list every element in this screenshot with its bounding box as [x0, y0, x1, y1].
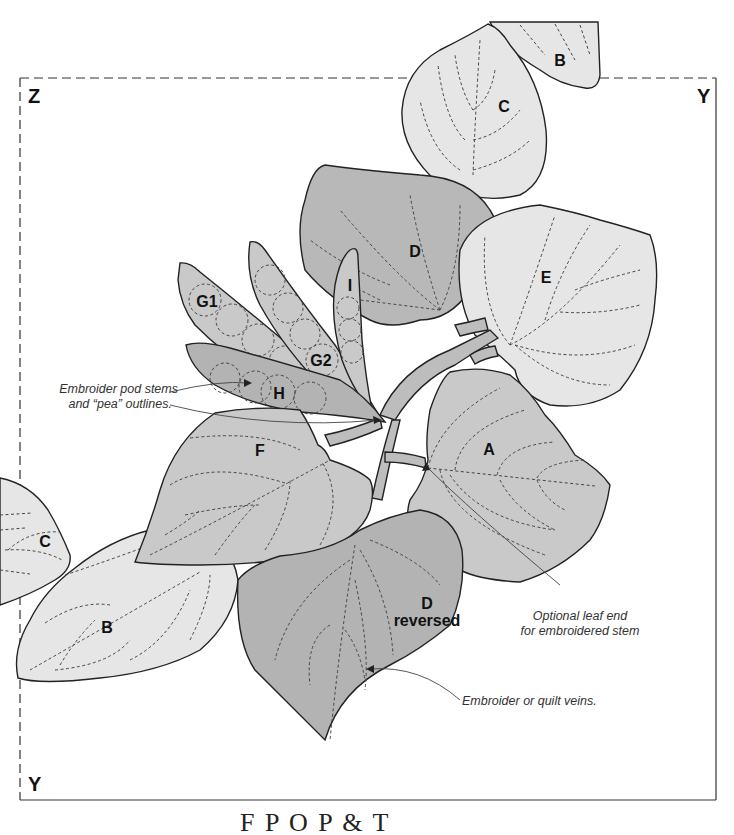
label-d-reversed-line2: reversed [394, 612, 461, 629]
corner-label-bottom-left: Y [28, 773, 42, 795]
label-e: E [541, 269, 552, 286]
label-g1: G1 [196, 293, 217, 310]
label-c-left: C [39, 533, 51, 550]
note-veins: Embroider or quilt veins. [462, 694, 597, 708]
label-d: D [409, 243, 421, 260]
label-a: A [483, 441, 495, 458]
label-b-top: B [554, 52, 566, 69]
label-d-reversed-line1: D [421, 595, 433, 612]
label-i: I [348, 277, 352, 294]
note-leaf-end-line2: for embroidered stem [521, 624, 640, 638]
label-g2: G2 [310, 352, 331, 369]
label-b-bottom: B [101, 619, 113, 636]
label-c-top: C [498, 98, 510, 115]
corner-label-top-right: Y [697, 85, 711, 107]
note-leaf-end-line1: Optional leaf end [533, 609, 629, 623]
note-pod-stems-line1: Embroider pod stems [59, 382, 178, 396]
label-f: F [255, 442, 265, 459]
label-h: H [273, 385, 285, 402]
note-pod-stems-line2: and “pea” outlines. [68, 397, 172, 411]
footer-title-partial: F P O P & T [240, 808, 390, 835]
corner-label-top-left: Z [28, 85, 40, 107]
